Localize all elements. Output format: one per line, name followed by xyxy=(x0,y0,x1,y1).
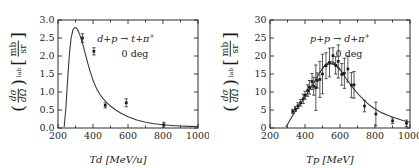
data-point-errorbar xyxy=(327,48,330,77)
data-point-errorbar xyxy=(349,73,352,98)
right-angle-annotation: 0 deg xyxy=(335,48,362,59)
y-tick-label: 0 xyxy=(260,122,266,133)
data-point-errorbar xyxy=(346,56,349,82)
y-tick-label: 3.0 xyxy=(39,14,54,25)
y-tick-label: 30 xyxy=(254,14,266,25)
data-point-errorbar xyxy=(125,99,128,107)
data-point-errorbar xyxy=(333,57,336,74)
x-tick-label: 800 xyxy=(365,130,383,141)
data-point-errorbar xyxy=(104,103,107,108)
data-point-errorbar xyxy=(352,71,355,98)
right-plot: 2004006008001000051015202530 p+p → d+π+ … xyxy=(210,0,419,168)
x-tick-label: 1000 xyxy=(186,130,209,141)
data-point-errorbar xyxy=(342,58,345,88)
left-plot: 20040060080010000.00.51.01.52.02.53.0 d+… xyxy=(0,0,209,168)
x-tick-label: 400 xyxy=(84,130,102,141)
y-tick-label: 10 xyxy=(254,86,266,97)
data-point-errorbar xyxy=(374,102,377,126)
y-tick-label: 0.5 xyxy=(39,104,54,115)
data-point-errorbar xyxy=(320,54,323,94)
data-point-errorbar xyxy=(390,118,393,124)
right-reaction-annotation: p+p → d+π+ xyxy=(310,32,370,44)
left-panel: (dσdΩ)lab [mbsr] 20040060080010000.00.51… xyxy=(0,0,210,168)
x-tick-label: 600 xyxy=(330,130,348,141)
y-tick-label: 25 xyxy=(254,32,266,43)
figure-container: (dσdΩ)lab [mbsr] 20040060080010000.00.51… xyxy=(0,0,419,168)
right-panel: (dσdΩ)lab [mbsr] 20040060080010000510152… xyxy=(210,0,419,168)
y-tick-label: 20 xyxy=(254,50,266,61)
data-point-errorbar xyxy=(324,53,327,79)
y-tick-label: 5 xyxy=(260,104,266,115)
left-xaxis-title: Td [MeV/u] xyxy=(89,154,146,165)
data-point-errorbar xyxy=(340,64,343,86)
data-point-errorbar xyxy=(331,48,334,64)
y-tick-label: 2.5 xyxy=(39,32,54,43)
y-tick-label: 0.0 xyxy=(39,122,54,133)
y-tick-label: 2.0 xyxy=(39,50,54,61)
data-point-errorbar xyxy=(318,61,321,97)
y-tick-label: 1.5 xyxy=(39,68,54,79)
left-reaction-annotation: d+p → t+π+ xyxy=(97,32,155,44)
right-xaxis-title: Tp [MeV] xyxy=(306,154,354,165)
left-angle-annotation: 0 deg xyxy=(122,48,149,59)
x-tick-label: 400 xyxy=(295,130,313,141)
y-tick-label: 15 xyxy=(254,68,266,79)
x-tick-label: 800 xyxy=(154,130,172,141)
x-tick-label: 600 xyxy=(119,130,137,141)
data-point-errorbar xyxy=(92,48,95,55)
y-tick-label: 1.0 xyxy=(39,86,54,97)
x-tick-label: 1000 xyxy=(397,130,418,141)
